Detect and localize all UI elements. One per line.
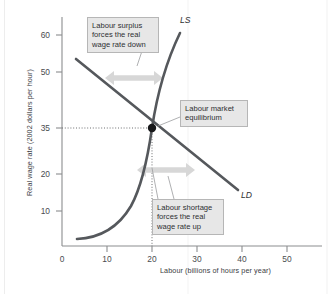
callout-labour-market-equilibrium: Labour market equilibrium xyxy=(180,100,248,127)
x-tick-label-40: 40 xyxy=(231,254,253,264)
x-tick-label-20: 20 xyxy=(141,254,163,264)
shortage-callout-leader-right xyxy=(168,176,174,199)
x-tick-label-30: 30 xyxy=(186,254,208,264)
supply-curve-label: LS xyxy=(180,15,191,25)
callout-labour-surplus: Labour surplus forces the real wage rate… xyxy=(87,17,159,53)
y-axis-title: Real wage rate (2002 dollars per hour) xyxy=(25,48,34,218)
x-axis-title: Labour (billions of hours per year) xyxy=(160,266,271,275)
demand-curve-label: LD xyxy=(241,190,252,200)
labour-surplus-arrow xyxy=(105,71,163,85)
x-tick-label-50: 50 xyxy=(276,254,298,264)
chart-plot-area xyxy=(0,0,333,294)
equilibrium-point-marker xyxy=(148,124,156,132)
equilibrium-callout-leader xyxy=(158,117,180,126)
y-tick-label-60: 60 xyxy=(28,30,50,40)
y-axis-ticks xyxy=(56,35,62,211)
x-tick-label-10: 10 xyxy=(96,254,118,264)
x-tick-label-0: 0 xyxy=(51,254,73,264)
x-axis-ticks xyxy=(107,246,287,252)
callout-labour-shortage: Labour shortage forces the real wage rat… xyxy=(152,199,224,235)
labour-market-chart: 60 50 35 20 10 0 10 20 30 40 50 Real wag… xyxy=(0,0,333,294)
